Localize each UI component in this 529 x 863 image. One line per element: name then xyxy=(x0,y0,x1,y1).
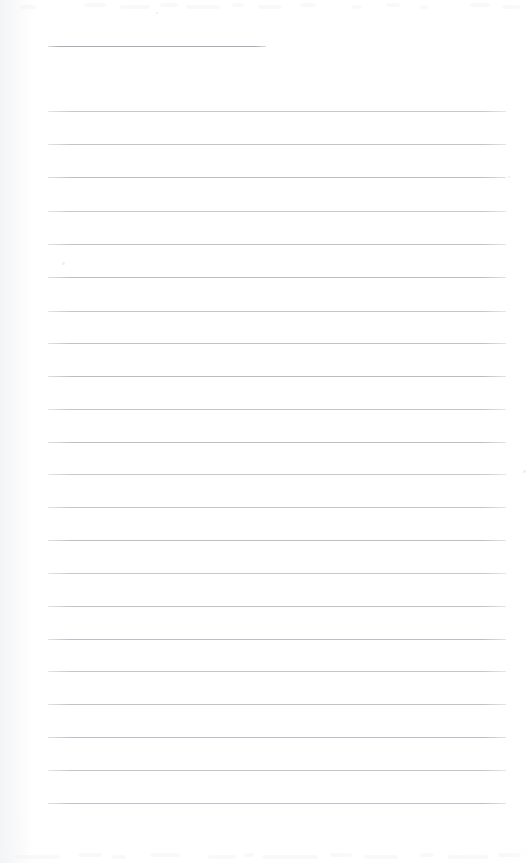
ruled-line xyxy=(48,244,506,245)
ruled-line xyxy=(48,606,506,607)
ruled-line xyxy=(48,144,506,145)
dust-speck xyxy=(508,176,510,178)
ruled-line xyxy=(48,507,506,508)
ruled-line xyxy=(48,111,506,112)
dust-speck xyxy=(62,262,65,265)
ruled-line xyxy=(48,311,506,312)
scanned-page xyxy=(0,0,529,863)
ruled-line xyxy=(48,474,506,475)
ruled-line xyxy=(48,442,506,443)
ruled-line xyxy=(48,409,506,410)
dust-speck xyxy=(156,12,158,14)
ruled-line xyxy=(48,803,506,804)
ruled-line xyxy=(48,704,506,705)
ruled-line xyxy=(48,177,506,178)
ruled-line xyxy=(48,770,506,771)
ruled-line xyxy=(48,343,506,344)
ruled-lines-group xyxy=(0,0,529,863)
ruled-line xyxy=(48,639,506,640)
ruled-line xyxy=(48,671,506,672)
ruled-line xyxy=(48,211,506,212)
dust-speck xyxy=(523,470,526,473)
ruled-line xyxy=(48,573,506,574)
ruled-line xyxy=(48,737,506,738)
ruled-line xyxy=(48,540,506,541)
ruled-line xyxy=(48,376,506,377)
ruled-line xyxy=(48,277,506,278)
